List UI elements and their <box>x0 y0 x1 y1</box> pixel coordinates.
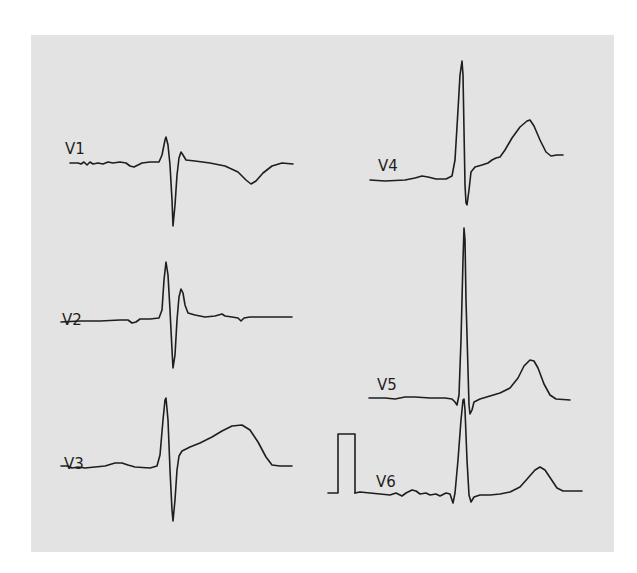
lead-label-v3: V3 <box>64 455 84 473</box>
trace-v4 <box>370 61 563 205</box>
lead-label-v5: V5 <box>377 376 397 394</box>
trace-v2 <box>61 262 292 368</box>
trace-v5 <box>369 228 570 414</box>
ecg-traces: V1 V2 V3 V4 V5 V6 <box>0 0 637 573</box>
lead-v2: V2 <box>61 262 292 368</box>
lead-v3: V3 <box>61 398 292 521</box>
lead-label-v4: V4 <box>378 157 398 175</box>
lead-label-v2: V2 <box>62 311 82 329</box>
lead-v6: V6 <box>328 399 582 503</box>
lead-label-v1: V1 <box>65 140 85 158</box>
lead-label-v6: V6 <box>376 473 396 491</box>
lead-v4: V4 <box>370 61 563 205</box>
trace-v3 <box>61 398 292 521</box>
calibration-pulse <box>328 434 355 493</box>
lead-v5: V5 <box>369 228 570 414</box>
lead-v1: V1 <box>65 137 293 226</box>
trace-v1 <box>70 137 293 226</box>
